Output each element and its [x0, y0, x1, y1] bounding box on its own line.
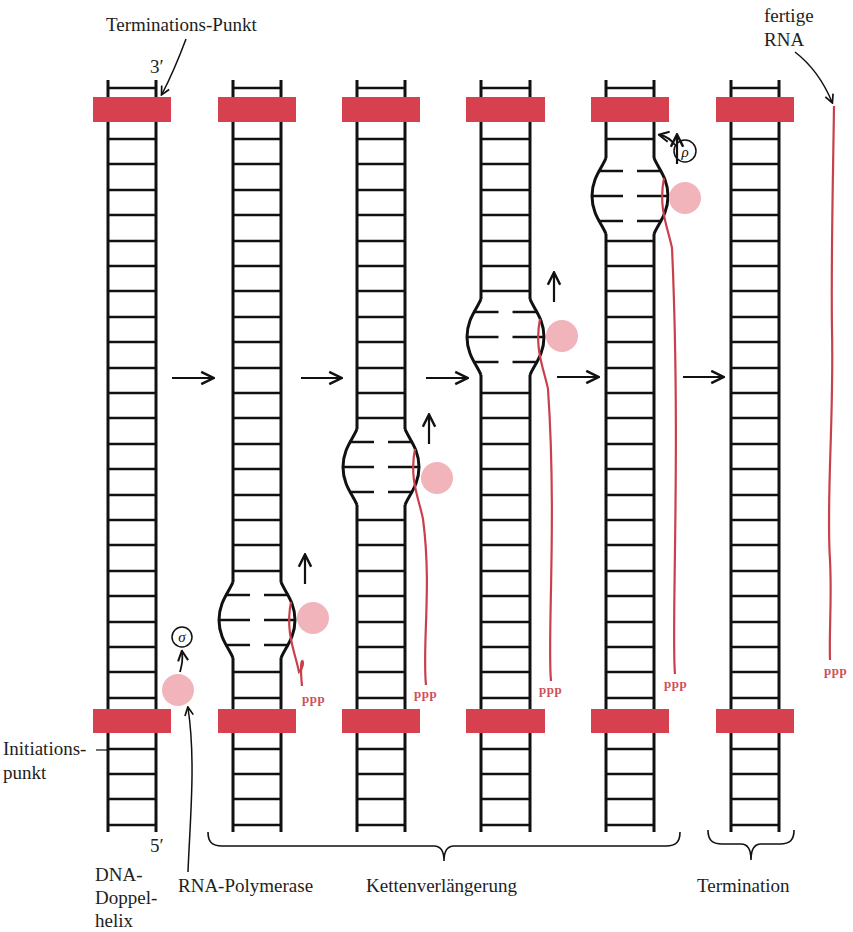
- dna-double-helix-label-line1: DNA-: [95, 864, 143, 886]
- initiation-point-marker: [93, 709, 171, 733]
- rho-factor-symbol: ρ: [680, 144, 688, 160]
- initiation-point-marker: [466, 709, 545, 733]
- termination-point-marker: [466, 97, 545, 122]
- ppp-label-stage4: ppp: [539, 682, 562, 698]
- initiation-point-label-line2: punkt: [3, 762, 46, 784]
- finished-rna-label-line2: RNA: [764, 29, 804, 51]
- five-prime-label: 5′: [150, 835, 164, 857]
- termination-brace: [708, 830, 794, 860]
- rna-polymerase-blob: [421, 462, 453, 494]
- termination-label: Termination: [697, 875, 790, 897]
- rna-polymerase-blob: [546, 320, 578, 352]
- transcription-diagram: σρ: [0, 0, 853, 932]
- termination-point-marker: [591, 97, 669, 122]
- finished-rna-strand: [829, 106, 834, 660]
- initiation-point-marker: [591, 709, 669, 733]
- finished-rna-label-line1: fertige: [764, 5, 814, 27]
- termination-point-marker: [218, 97, 296, 122]
- termination-point-marker: [342, 97, 420, 122]
- initiation-point-marker: [218, 709, 296, 733]
- rna-polymerase-blob: [669, 182, 701, 214]
- elongation-label: Kettenverlängerung: [366, 875, 517, 897]
- dna-double-helix-label-line2: Doppel-: [95, 887, 157, 909]
- rna-polymerase-blob: [297, 602, 329, 634]
- elongation-brace: [208, 832, 680, 861]
- dna-double-helix-label-line3: helix: [95, 910, 133, 932]
- ppp-label-stage2: ppp: [302, 691, 325, 707]
- rna-transcript: [662, 178, 676, 674]
- initiation-point-label-line1: Initiations-: [3, 738, 86, 760]
- termination-point-marker: [93, 97, 171, 122]
- initiation-point-marker: [716, 709, 794, 733]
- rna-polymerase-blob: [162, 674, 194, 706]
- ppp-label-stage5: ppp: [664, 676, 687, 692]
- termination-point-label: Terminations-Punkt: [106, 14, 257, 36]
- sigma-release-arrow-icon: [180, 652, 182, 672]
- ppp-label-finished: ppp: [824, 663, 847, 679]
- finished-rna-pointer-icon: [795, 52, 832, 102]
- rna-polymerase-label: RNA-Polymerase: [178, 875, 313, 897]
- initiation-point-marker: [342, 709, 420, 733]
- three-prime-label: 3′: [150, 56, 164, 78]
- termination-point-pointer-icon: [162, 39, 186, 94]
- rna-transcript: [538, 319, 552, 681]
- termination-point-marker: [716, 97, 794, 122]
- rna-polymerase-pointer-icon: [188, 708, 192, 872]
- ppp-label-stage3: ppp: [414, 686, 437, 702]
- rho-binding-arrow-icon: [660, 135, 675, 145]
- sigma-factor-symbol: σ: [178, 629, 186, 645]
